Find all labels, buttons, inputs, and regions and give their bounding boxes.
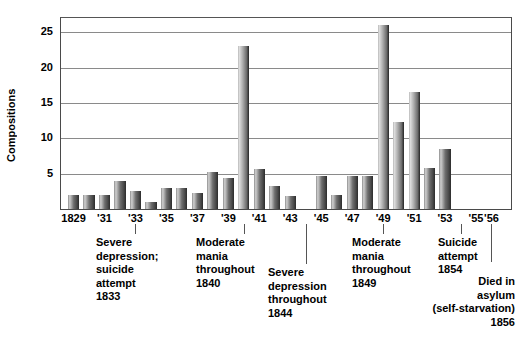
bar-slot (130, 18, 141, 209)
bar[interactable] (362, 176, 373, 209)
y-axis-title: Compositions (2, 60, 20, 190)
bar-slot (362, 18, 373, 209)
bar[interactable] (99, 195, 110, 209)
bar-slot (470, 18, 481, 209)
bar-slot (316, 18, 327, 209)
bar-slot (207, 18, 218, 209)
bar[interactable] (130, 191, 141, 209)
bar-slot (83, 18, 94, 209)
bar-slot (455, 18, 466, 209)
bar-slot (145, 18, 156, 209)
plot-area (60, 17, 512, 210)
bar[interactable] (114, 181, 125, 209)
bar[interactable] (254, 169, 265, 209)
annotation-leader-line (244, 224, 245, 234)
bar-slot (223, 18, 234, 209)
x-axis-tick-label: '47 (345, 212, 360, 224)
bar-slot (300, 18, 311, 209)
y-axis-tick-label: 20 (41, 62, 53, 73)
bar-slot (114, 18, 125, 209)
bar-slot (409, 18, 420, 209)
x-axis-tick-label: '43 (283, 212, 298, 224)
x-axis-tick-label: '33 (128, 212, 143, 224)
bar[interactable] (316, 176, 327, 209)
bar[interactable] (331, 195, 342, 209)
x-axis-tick-label: '39 (221, 212, 236, 224)
bar[interactable] (393, 122, 404, 209)
annotation-leader-line (135, 224, 136, 234)
bar[interactable] (161, 188, 172, 209)
bar[interactable] (83, 195, 94, 209)
bar[interactable] (176, 188, 187, 209)
annotation-layer: Severe depression; suicide attempt 1833M… (0, 224, 521, 353)
bar[interactable] (223, 178, 234, 209)
bar[interactable] (192, 193, 203, 209)
x-axis-tick-label: '37 (190, 212, 205, 224)
bar-slot (68, 18, 79, 209)
bar-slot (439, 18, 450, 209)
bar[interactable] (409, 92, 420, 209)
annotation-leader-line (461, 224, 462, 234)
bar-slot (161, 18, 172, 209)
y-axis-tick-label: 25 (41, 26, 53, 37)
bar-slot (486, 18, 497, 209)
bar-slot (393, 18, 404, 209)
annotation-leader-line (306, 224, 307, 264)
annotation-text: Suicide attempt 1854 (438, 236, 516, 277)
bar[interactable] (269, 186, 280, 209)
bar[interactable] (145, 202, 156, 209)
x-axis-tick-label: '45 (314, 212, 329, 224)
bar-slot (238, 18, 249, 209)
bar[interactable] (378, 25, 389, 209)
annotation-text: Died in asylum (self-starvation) 1856 (396, 275, 515, 329)
x-axis-tick-label: 1829 (61, 212, 85, 224)
x-axis-tick-label: '53 (438, 212, 453, 224)
bar-slot (176, 18, 187, 209)
y-axis-tick-label: 15 (41, 97, 53, 108)
x-axis-tick-label: '55 (469, 212, 484, 224)
bar[interactable] (207, 172, 218, 209)
bar-slot (285, 18, 296, 209)
bar-slot (347, 18, 358, 209)
bar-slot (254, 18, 265, 209)
x-axis-tick-label: '35 (159, 212, 174, 224)
bar[interactable] (238, 46, 249, 209)
bar-slot (424, 18, 435, 209)
bar[interactable] (439, 149, 450, 209)
bar-slot (192, 18, 203, 209)
bar[interactable] (68, 195, 79, 209)
annotation-leader-line (491, 224, 492, 262)
bar-slot (331, 18, 342, 209)
bar[interactable] (347, 176, 358, 209)
x-axis-tick-label: '49 (376, 212, 391, 224)
x-axis-tick-label: '56 (484, 212, 499, 224)
bar-slot (269, 18, 280, 209)
y-axis-tick-label: 5 (47, 168, 53, 179)
bar-chart-figure: Compositions 510152025 1829'31'33'35'37'… (0, 0, 521, 353)
bar[interactable] (285, 196, 296, 209)
x-axis-tick-label: '51 (407, 212, 422, 224)
x-axis-tick-label: '41 (252, 212, 267, 224)
bar-series (61, 18, 511, 209)
x-axis-tick-label: '31 (97, 212, 112, 224)
y-axis-tick-label: 10 (41, 132, 53, 143)
bar-slot (378, 18, 389, 209)
annotation-leader-line (383, 224, 384, 234)
bar[interactable] (424, 168, 435, 209)
bar-slot (99, 18, 110, 209)
